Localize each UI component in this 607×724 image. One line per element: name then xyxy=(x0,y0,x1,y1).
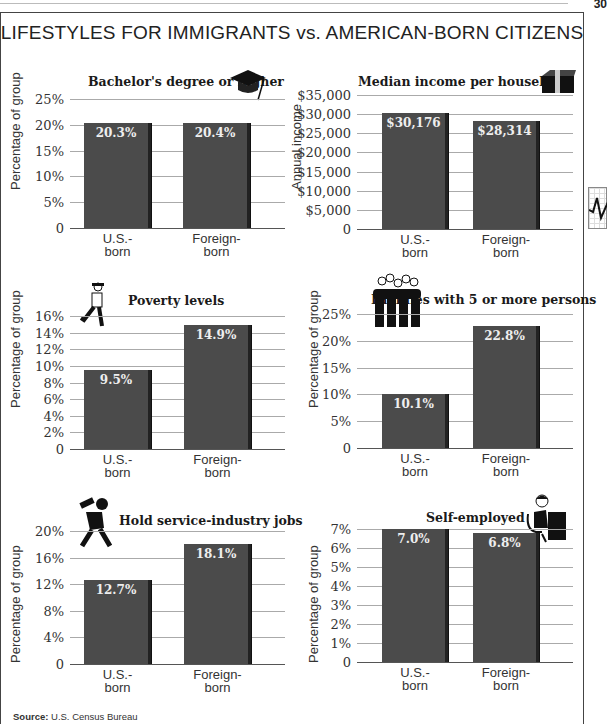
x-axis-line xyxy=(70,449,285,450)
y-tick-label: 1% xyxy=(330,636,351,651)
y-tick-label: 4% xyxy=(43,408,64,423)
x-category-label: Foreign-born xyxy=(466,666,546,692)
y-tick-label: 0 xyxy=(56,221,64,236)
x-category-label: U.S.-born xyxy=(375,452,455,478)
chart-title: Poverty levels xyxy=(128,293,224,308)
y-tick-label: 6% xyxy=(43,392,64,407)
category-line-2: born xyxy=(466,679,546,692)
y-tick-label: 5% xyxy=(43,195,64,210)
y-tick-label: 5% xyxy=(330,414,351,429)
y-tick-label: 20% xyxy=(35,117,64,132)
source-text: U.S. Census Bureau xyxy=(51,711,138,722)
plot-area: 02%4%6%8%10%12%14%16%9.5%U.S.-born14.9%F… xyxy=(70,316,285,449)
y-tick-label: 16% xyxy=(35,550,64,565)
y-tick-label: 5% xyxy=(330,560,351,575)
gridline xyxy=(70,316,285,317)
y-tick-label: 20% xyxy=(35,524,64,539)
chart-title: Median income per household xyxy=(358,74,570,89)
bar-us-born: $30,176 xyxy=(382,113,448,229)
y-tick-label: 6% xyxy=(330,541,351,556)
x-category-label: U.S.-born xyxy=(78,232,158,258)
x-category-label: Foreign-born xyxy=(466,233,546,259)
gridline xyxy=(357,314,573,315)
x-axis-line xyxy=(357,662,573,663)
y-tick-label: 8% xyxy=(43,375,64,390)
y-tick-label: 20% xyxy=(322,333,351,348)
x-category-label: U.S.-born xyxy=(375,233,455,259)
plot-area: 0$5,000$10,000$15,000$20,000$25,000$30,0… xyxy=(357,95,573,229)
bar-value-label: 6.8% xyxy=(473,536,536,550)
y-tick-label: 0 xyxy=(56,442,64,457)
chart-title: Hold service-industry jobs xyxy=(119,513,303,528)
y-tick-label: 4% xyxy=(43,630,64,645)
x-axis-line xyxy=(357,448,573,449)
y-tick-label: 14% xyxy=(35,325,64,340)
bar-us-born: 12.7% xyxy=(84,580,151,664)
plot-area: 05%10%15%20%25%20.3%U.S.-born20.4%Foreig… xyxy=(70,99,285,228)
bar-foreign-born: $28,314 xyxy=(473,121,539,229)
category-line-2: born xyxy=(177,245,257,258)
bar-foreign-born: 14.9% xyxy=(184,325,251,449)
gridline xyxy=(70,333,285,334)
y-tick-label: $30,000 xyxy=(297,107,351,122)
category-line-2: born xyxy=(178,466,258,479)
bar-value-label: 14.9% xyxy=(184,328,248,342)
bar-value-label: $30,176 xyxy=(382,116,445,130)
y-tick-label: 15% xyxy=(322,360,351,375)
gridline xyxy=(70,349,285,350)
bar-value-label: 9.5% xyxy=(84,373,148,387)
x-category-label: Foreign-born xyxy=(178,668,258,694)
figure-title: LIFESTYLES FOR IMMIGRANTS vs. AMERICAN-B… xyxy=(0,22,584,44)
y-axis-label: Percentage of group xyxy=(306,545,321,663)
y-tick-label: 2% xyxy=(43,425,64,440)
category-line-2: born xyxy=(178,681,258,694)
category-line-2: born xyxy=(375,246,455,259)
bar-foreign-born: 22.8% xyxy=(473,326,539,448)
y-tick-label: 0 xyxy=(343,441,351,456)
gridline xyxy=(70,558,285,559)
bar-us-born: 10.1% xyxy=(382,394,448,448)
source-note: Source: U.S. Census Bureau xyxy=(13,711,138,722)
plot-area: 04%8%12%16%20%12.7%U.S.-born18.1%Foreign… xyxy=(70,531,285,664)
y-tick-label: 4% xyxy=(330,579,351,594)
x-category-label: Foreign-born xyxy=(177,232,257,258)
y-tick-label: $35,000 xyxy=(297,88,351,103)
x-category-label: U.S.-born xyxy=(78,668,158,694)
y-tick-label: 3% xyxy=(330,598,351,613)
y-tick-label: $20,000 xyxy=(297,145,351,160)
gridline xyxy=(70,366,285,367)
x-axis-line xyxy=(70,664,285,665)
plot-area: 05%10%15%20%25%10.1%U.S.-born22.8%Foreig… xyxy=(357,314,573,448)
bar-value-label: 18.1% xyxy=(184,547,248,561)
category-line-2: born xyxy=(78,681,158,694)
gridline xyxy=(70,99,285,100)
y-tick-label: 7% xyxy=(330,522,351,537)
bar-us-born: 9.5% xyxy=(84,370,151,449)
category-line-2: born xyxy=(78,466,158,479)
bar-foreign-born: 18.1% xyxy=(184,544,251,664)
y-tick-label: 16% xyxy=(35,309,64,324)
category-line-2: born xyxy=(466,465,546,478)
y-tick-label: 10% xyxy=(322,387,351,402)
x-category-label: U.S.-born xyxy=(375,666,455,692)
y-tick-label: $10,000 xyxy=(297,183,351,198)
bar-value-label: 12.7% xyxy=(84,583,148,597)
y-tick-label: 10% xyxy=(35,169,64,184)
bar-us-born: 7.0% xyxy=(382,529,448,662)
y-tick-label: 25% xyxy=(322,307,351,322)
category-line-2: born xyxy=(466,246,546,259)
bar-foreign-born: 6.8% xyxy=(473,533,539,662)
gridline xyxy=(357,341,573,342)
bar-value-label: 10.1% xyxy=(382,397,445,411)
y-tick-label: 2% xyxy=(330,617,351,632)
bar-foreign-born: 20.4% xyxy=(183,123,250,228)
x-category-label: Foreign-born xyxy=(178,453,258,479)
category-line-2: born xyxy=(375,679,455,692)
category-line-2: born xyxy=(78,245,158,258)
y-tick-label: 0 xyxy=(343,655,351,670)
bar-value-label: 20.4% xyxy=(183,126,247,140)
y-tick-label: 12% xyxy=(35,342,64,357)
y-tick-label: $5,000 xyxy=(306,202,352,217)
page-number: 30 xyxy=(594,0,607,11)
bar-us-born: 20.3% xyxy=(84,123,151,228)
